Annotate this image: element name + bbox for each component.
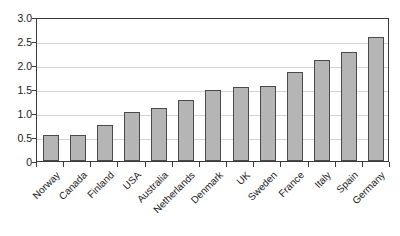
x-tick-label-text: UK: [235, 170, 252, 187]
bar-italy: [314, 60, 330, 161]
bar-slot: [118, 19, 145, 161]
bar-uk: [233, 87, 249, 161]
bar-denmark: [205, 90, 221, 161]
x-tick-label: Finland: [86, 170, 116, 200]
x-tick-mark: [226, 162, 227, 167]
plot-area: [36, 18, 389, 162]
bar-australia: [151, 108, 167, 161]
x-tick-mark: [362, 162, 363, 167]
x-tick-mark: [63, 162, 64, 167]
x-tick-label-text: Norway: [31, 170, 62, 201]
x-tick-label: Italy: [313, 170, 333, 190]
x-tick-label-text: Canada: [57, 170, 89, 202]
x-tick-label: Canada: [57, 170, 89, 202]
bar-sweden: [260, 86, 276, 161]
y-tick-label: 2.5: [0, 37, 32, 48]
y-tick-label: 0: [0, 157, 32, 168]
x-tick-label-text: Finland: [86, 170, 116, 200]
bar-netherlands: [178, 100, 194, 161]
bar-spain: [341, 52, 357, 161]
bar-slot: [254, 19, 281, 161]
bar-slot: [37, 19, 64, 161]
bar-norway: [43, 135, 59, 161]
y-tick-label: 0.5: [0, 133, 32, 144]
x-tick-label-text: Italy: [313, 170, 333, 190]
x-tick-label: France: [277, 170, 306, 199]
x-tick-mark: [389, 162, 390, 167]
x-tick-mark: [199, 162, 200, 167]
x-tick-mark: [172, 162, 173, 167]
x-tick-mark: [308, 162, 309, 167]
bar-canada: [70, 135, 86, 161]
bar-slot: [91, 19, 118, 161]
bar-slot: [64, 19, 91, 161]
bars-layer: [37, 19, 388, 161]
bar-slot: [227, 19, 254, 161]
x-tick-label-text: USA: [121, 170, 143, 192]
bar-slot: [146, 19, 173, 161]
bar-slot: [281, 19, 308, 161]
bar-usa: [124, 112, 140, 161]
y-tick-label: 2.0: [0, 61, 32, 72]
bar-slot: [200, 19, 227, 161]
x-tick-mark: [280, 162, 281, 167]
x-tick-mark: [145, 162, 146, 167]
y-tick-label: 1.5: [0, 85, 32, 96]
bar-germany: [368, 37, 384, 161]
x-tick-label: UK: [235, 170, 252, 187]
bar-chart: 3.02.52.01.51.00.50 NorwayCanadaFinlandU…: [0, 0, 400, 236]
bar-finland: [97, 125, 113, 161]
x-tick-label: Norway: [31, 170, 62, 201]
bar-slot: [173, 19, 200, 161]
x-tick-mark: [335, 162, 336, 167]
x-tick-label-text: France: [277, 170, 306, 199]
x-tick-mark: [253, 162, 254, 167]
x-tick-mark: [36, 162, 37, 167]
x-tick-label: Sweden: [246, 170, 279, 203]
bar-slot: [363, 19, 390, 161]
x-tick-label-text: Sweden: [246, 170, 279, 203]
x-tick-mark: [117, 162, 118, 167]
bar-slot: [336, 19, 363, 161]
y-tick-label: 1.0: [0, 109, 32, 120]
x-tick-mark: [90, 162, 91, 167]
y-tick-label: 3.0: [0, 13, 32, 24]
bar-slot: [309, 19, 336, 161]
x-tick-label: USA: [121, 170, 143, 192]
bar-france: [287, 72, 303, 161]
